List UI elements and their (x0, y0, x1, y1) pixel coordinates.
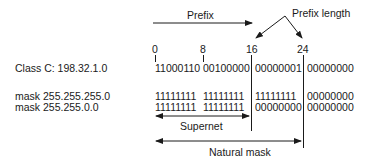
prefix-label: Prefix (187, 9, 214, 21)
natural-mask-label: Natural mask (209, 146, 271, 158)
row-label-class-c: Class C: 198.32.1.0 (15, 62, 107, 74)
octet-0-3: 00000001 (255, 62, 302, 74)
prefix-length-label: Prefix length (292, 7, 350, 19)
prefix-length-arrow-24 (285, 16, 302, 38)
octet-0-2: 00100000 (203, 62, 250, 74)
tick-label-8: 8 (200, 43, 206, 55)
tick-label-0: 0 (152, 43, 158, 55)
row-label-mask-16: mask 255.255.0.0 (15, 101, 98, 113)
octet-2-2: 11111111 (203, 101, 244, 113)
supernet-label: Supernet (180, 120, 223, 132)
octet-2-3: 00000000 (255, 101, 302, 113)
prefix-length-arrow-16 (256, 16, 285, 38)
octet-0-4: 00000000 (307, 62, 354, 74)
octet-2-1: 11111111 (155, 101, 196, 113)
tick-label-16: 16 (246, 43, 258, 55)
tick-label-24: 24 (297, 43, 309, 55)
diagram-lines (0, 0, 365, 164)
octet-2-4: 00000000 (307, 101, 354, 113)
octet-0-1: 11000110 (155, 62, 200, 74)
